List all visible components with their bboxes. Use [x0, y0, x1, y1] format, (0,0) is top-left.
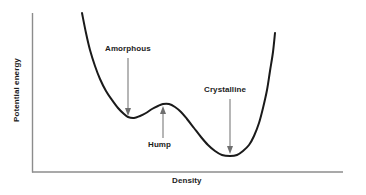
amorphous-arrow [125, 58, 131, 116]
potential-energy-curve [82, 13, 275, 156]
x-axis-label: Density [172, 176, 202, 186]
hump-arrow [160, 106, 166, 138]
crystalline-arrow [227, 99, 233, 154]
hump-arrow-head [160, 106, 166, 114]
annotation-label-crystalline: Crystalline [204, 85, 246, 95]
crystalline-arrow-head [227, 146, 233, 154]
plot-canvas [0, 0, 366, 195]
annotation-label-amorphous: Amorphous [105, 44, 151, 54]
potential-energy-density-figure: Amorphous Crystalline Hump Density Poten… [0, 0, 366, 195]
y-axis-label: Potential energy [12, 45, 22, 135]
annotation-label-hump: Hump [148, 140, 171, 150]
